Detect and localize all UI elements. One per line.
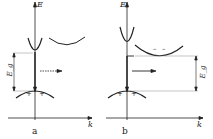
gap-label-b: E_g: [199, 65, 207, 78]
conduction-band-side-valley-a: [49, 37, 85, 45]
k-axis-label-b: k: [197, 120, 202, 129]
gap-label-a: E_g: [6, 63, 14, 76]
electron-b-1: –: [153, 45, 157, 53]
arrow-down-icon: [195, 87, 197, 91]
arrow-right-icon: [57, 70, 62, 73]
caption-a: a: [32, 126, 37, 136]
energy-axis-label-a: E: [37, 0, 43, 9]
arrow-right-icon: [151, 70, 156, 73]
arrow-up-icon: [195, 56, 197, 60]
caption-b: b: [122, 126, 128, 136]
energy-axis-label-b: E: [120, 0, 126, 9]
k-axis-label-a: k: [88, 120, 93, 129]
arrow-up-icon: [13, 53, 15, 57]
hole-b-1: +: [117, 90, 123, 98]
diagram-a: [8, 2, 92, 120]
band-diagrams: [0, 0, 213, 139]
hole-a-1: +: [26, 90, 32, 98]
arrow-down-icon: [13, 87, 15, 91]
hole-a-2: +: [39, 90, 45, 98]
conduction-band-indirect-b: [135, 45, 183, 56]
diagram-b: [106, 2, 203, 120]
hole-b-2: +: [131, 90, 137, 98]
electron-b-2: –: [162, 45, 166, 53]
